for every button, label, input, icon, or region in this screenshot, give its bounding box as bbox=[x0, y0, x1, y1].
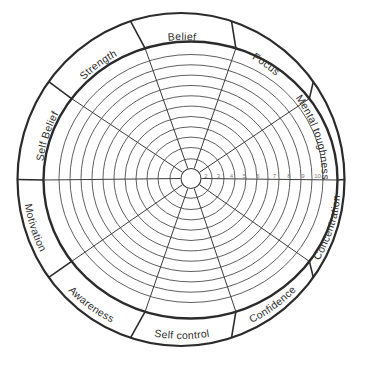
segment-label-motivation: Motivation bbox=[23, 203, 50, 254]
scale-ticks: 2 3 4 5 6 7 8 9 10 bbox=[204, 173, 321, 179]
scale-tick-2: 2 bbox=[204, 173, 208, 179]
performance-wheel-diagram: 2 3 4 5 6 7 8 9 10 Self Belief Strength … bbox=[0, 0, 380, 365]
segment-label-self-control: Self control bbox=[154, 327, 210, 341]
scale-tick-3: 3 bbox=[217, 173, 221, 179]
scale-tick-4: 4 bbox=[230, 173, 234, 179]
scale-tick-7: 7 bbox=[273, 173, 277, 179]
segment-label-belief: Belief bbox=[167, 30, 197, 43]
scale-tick-9: 9 bbox=[301, 173, 305, 179]
wheel-svg: 2 3 4 5 6 7 8 9 10 Self Belief Strength … bbox=[0, 0, 380, 365]
scale-tick-8: 8 bbox=[287, 173, 291, 179]
segment-label-focus: Focus bbox=[251, 50, 283, 78]
center-hub-circle bbox=[181, 169, 201, 189]
scale-tick-6: 6 bbox=[256, 173, 260, 179]
segment-label-strength: Strength bbox=[77, 47, 119, 82]
